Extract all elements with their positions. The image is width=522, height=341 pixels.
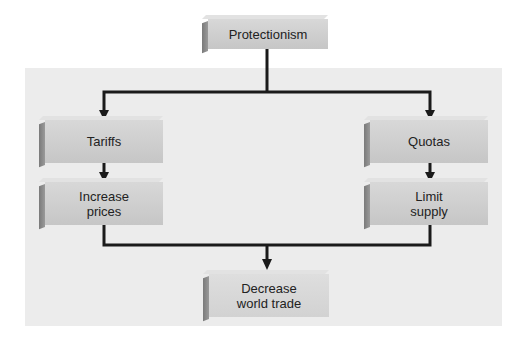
- node-label: Protectionism: [229, 27, 308, 42]
- arrow-head-icon: [262, 259, 272, 270]
- node-label: Tariffs: [87, 134, 121, 149]
- node-protectionism: Protectionism: [208, 19, 328, 49]
- node-increase-prices: Increase prices: [45, 182, 163, 225]
- node-limit-supply: Limit supply: [370, 182, 488, 225]
- node-tariffs: Tariffs: [45, 120, 163, 163]
- node-label: Limit supply: [410, 189, 448, 219]
- node-quotas: Quotas: [370, 120, 488, 163]
- node-label: Decrease world trade: [237, 281, 301, 311]
- node-label: Quotas: [408, 134, 450, 149]
- node-decrease-world-trade: Decrease world trade: [209, 274, 329, 317]
- node-label: Increase prices: [79, 189, 129, 219]
